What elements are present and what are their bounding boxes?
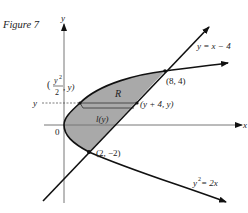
- figure-caption: Figure 7: [2, 19, 40, 30]
- svg-text:(: (: [47, 79, 51, 91]
- point-8-4: [163, 69, 167, 73]
- origin-label: 0: [55, 127, 60, 137]
- strip-y-label: y: [32, 98, 37, 108]
- svg-text:y: y: [192, 178, 197, 188]
- intersection-top-label: (8, 4): [166, 76, 186, 86]
- parabola-lower: [89, 152, 226, 202]
- left-point-label: ( y 2 2 , y): [47, 74, 75, 97]
- svg-text:= 2x: = 2x: [201, 178, 218, 188]
- svg-text:2: 2: [59, 74, 62, 80]
- intersection-bottom-label: (2, −2): [96, 148, 121, 158]
- x-axis-label: x: [242, 120, 247, 130]
- svg-text:, y): , y): [63, 82, 75, 92]
- svg-text:2: 2: [55, 88, 59, 97]
- line-label: y = x − 4: [196, 41, 231, 51]
- point-left-strip: [78, 101, 81, 104]
- strip-length-label: l(y): [96, 114, 109, 124]
- right-point-label: (y + 4, y): [140, 99, 174, 109]
- y-axis-label: y: [60, 13, 65, 23]
- figure-7-diagram: Figure 7 y x 0 R l(y) y ( y 2 2 , y) (y …: [0, 0, 248, 213]
- parabola-label: y 2 = 2x: [192, 176, 218, 188]
- point-2-neg2: [87, 150, 91, 154]
- svg-text:y: y: [53, 76, 58, 85]
- region-label: R: [114, 88, 121, 99]
- point-right-strip: [135, 101, 138, 104]
